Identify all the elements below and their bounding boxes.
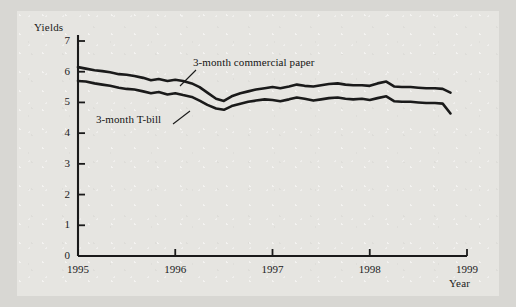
axes-group [78, 35, 467, 256]
x-tick-label: 1995 [58, 263, 98, 275]
y-tick-label: 1 [54, 218, 70, 230]
y-tick-label: 5 [54, 95, 70, 107]
series-label-commercial-paper: 3-month commercial paper [193, 56, 315, 68]
x-tick-label: 1999 [447, 263, 487, 275]
series-label-t-bill: 3-month T-bill [96, 113, 161, 125]
y-tick-label: 2 [54, 188, 70, 200]
y-tick-label: 0 [54, 249, 70, 261]
leader-line-t-bill [173, 111, 190, 124]
x-axis-title: Year [449, 277, 470, 289]
y-tick-label: 6 [54, 65, 70, 77]
x-tick-label: 1996 [155, 263, 195, 275]
figure-panel: Yields Year 01234567 1995199619971998199… [0, 0, 516, 307]
chart-plot-area [0, 0, 516, 307]
y-tick-label: 3 [54, 157, 70, 169]
x-tick-label: 1997 [253, 263, 293, 275]
series-line [78, 67, 450, 101]
series-group [78, 67, 450, 113]
y-tick-label: 7 [54, 34, 70, 46]
y-tick-label: 4 [54, 126, 70, 138]
x-tick-label: 1998 [350, 263, 390, 275]
y-axis-title: Yields [34, 21, 63, 33]
